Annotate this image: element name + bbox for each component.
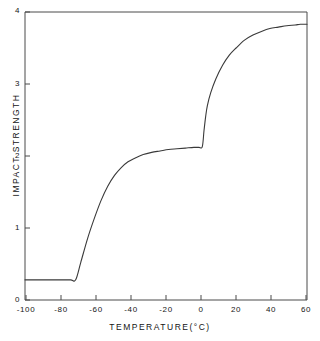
x-axis-ticks <box>26 295 306 300</box>
data-series-line <box>25 24 307 281</box>
x-tick-label-minus-100: -100 <box>8 305 44 314</box>
y-axis-title: IMPACT STRENGTH <box>11 75 21 215</box>
y-tick-label-1: 1 <box>4 223 20 232</box>
x-tick-label-20: 20 <box>222 305 250 314</box>
y-axis-ticks <box>25 12 30 300</box>
x-tick-label-minus-40: -40 <box>114 305 148 314</box>
plot-area <box>0 0 320 341</box>
x-tick-label-minus-20: -20 <box>149 305 183 314</box>
x-axis-title: TEMPERATURE(°C) <box>0 322 320 332</box>
x-tick-label-minus-60: -60 <box>79 305 113 314</box>
x-tick-label-minus-80: -80 <box>44 305 78 314</box>
axis-frame <box>25 12 307 300</box>
y-tick-label-4: 4 <box>4 6 20 15</box>
x-tick-label-60: 60 <box>292 305 320 314</box>
x-tick-label-40: 40 <box>257 305 285 314</box>
y-tick-label-0: 0 <box>4 295 20 304</box>
x-tick-label-0: 0 <box>187 305 215 314</box>
chart-figure: 0 1 2 3 4 -100 -80 -60 -40 -20 0 20 40 6… <box>0 0 320 341</box>
